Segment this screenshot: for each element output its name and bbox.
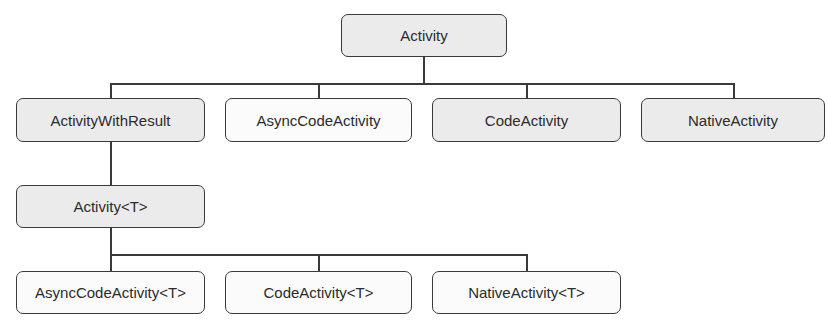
connector-to-codeactivity xyxy=(526,83,528,98)
node-codeactivity-t: CodeActivity<T> xyxy=(225,271,412,314)
connector-to-activity-t xyxy=(110,142,112,185)
node-activitywithresult: ActivityWithResult xyxy=(16,98,205,142)
connector-to-codeactivity-t xyxy=(318,254,320,271)
connector-to-nativeactivity xyxy=(733,83,735,98)
connector-to-nativeactivity-t xyxy=(526,254,528,271)
connector-level1-bar xyxy=(110,83,734,85)
connector-root-down xyxy=(423,56,425,83)
node-activity-t: Activity<T> xyxy=(16,185,205,228)
connector-to-activitywithresult xyxy=(110,83,112,98)
node-asynccodeactivity: AsyncCodeActivity xyxy=(225,98,412,142)
node-codeactivity: CodeActivity xyxy=(432,98,621,142)
connector-activity-t-down xyxy=(110,228,112,271)
node-nativeactivity: NativeActivity xyxy=(641,98,825,142)
node-asynccodeactivity-t: AsyncCodeActivity<T> xyxy=(16,271,205,314)
connector-to-asynccodeactivity xyxy=(318,83,320,98)
node-activity: Activity xyxy=(341,14,507,57)
node-nativeactivity-t: NativeActivity<T> xyxy=(432,271,621,314)
